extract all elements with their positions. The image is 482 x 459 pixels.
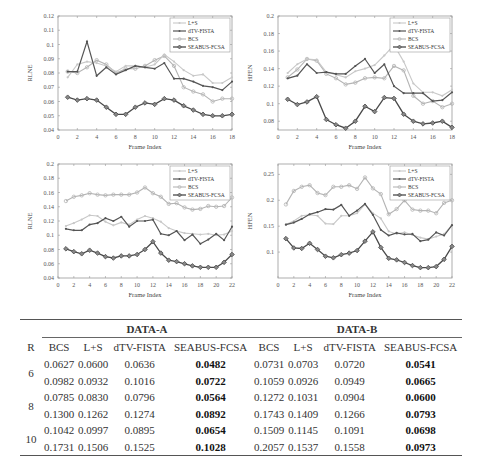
x-tick-label: 10 (372, 134, 378, 140)
y-axis-label: HFEN (246, 212, 253, 229)
x-tick-label: 18 (449, 134, 455, 140)
x-axis-label: Frame Index (348, 143, 382, 150)
y-axis-label: RLNE (26, 212, 33, 229)
y-tick-label: 0.1 (267, 101, 275, 107)
legend-entry: dTV-FISTA (408, 28, 434, 34)
y-tick-label: 0.04 (44, 127, 55, 133)
x-tick-label: 18 (417, 282, 423, 288)
chart-legend: L+SdTV-FISTABCSSEABUS-FCSA (390, 18, 450, 52)
table-cell: 0.0541 (379, 356, 462, 373)
table-cell: 0.0949 (320, 373, 379, 390)
table-cell: 0.1262 (76, 406, 110, 423)
col-header: SEABUS-FCSA (169, 338, 252, 357)
series-dtv-fista (65, 216, 233, 245)
table-cell: 0.0982 (42, 373, 76, 390)
table-cell: 0.0600 (76, 356, 110, 373)
y-tick-label: 0.16 (264, 48, 275, 54)
table-cell: 0.0703 (286, 356, 320, 373)
table-cell: 0.0793 (379, 406, 462, 423)
x-tick-label: 4 (315, 134, 318, 140)
table-cell: 0.0904 (320, 389, 379, 406)
table-row: 0.13000.12620.12740.08920.17430.14090.12… (20, 406, 462, 423)
x-tick-label: 2 (76, 134, 79, 140)
x-tick-label: 12 (391, 134, 397, 140)
table-cell: 0.1274 (110, 406, 169, 423)
y-tick-label: 0.09 (44, 56, 55, 62)
x-tick-label: 16 (430, 134, 436, 140)
x-tick-label: 0 (57, 282, 60, 288)
table-cell: 0.0665 (379, 373, 462, 390)
table-cell: 0.0973 (379, 439, 462, 456)
y-tick-label: 0.08 (44, 247, 55, 253)
x-tick-label: 20 (213, 282, 219, 288)
table-cell: 0.1558 (320, 439, 379, 456)
table-cell: 0.0722 (169, 373, 252, 390)
x-tick-label: 4 (95, 134, 98, 140)
legend-entry: L+S (188, 20, 198, 26)
x-tick-label: 16 (182, 282, 188, 288)
col-header: BCS (42, 338, 76, 357)
y-tick-label: 0.08 (44, 70, 55, 76)
table-cell: 0.0830 (76, 389, 110, 406)
table-cell: 0.1091 (320, 422, 379, 439)
y-tick-label: 0.14 (44, 204, 55, 210)
legend-entry: BCS (188, 184, 198, 190)
table-cell: 0.1537 (286, 439, 320, 456)
col-header: L+S (286, 338, 320, 357)
legend-entry: SEABUS-FCSA (408, 44, 445, 50)
legend-entry: BCS (408, 36, 418, 42)
y-tick-label: 0.06 (44, 261, 55, 267)
x-tick-label: 8 (134, 134, 137, 140)
legend-entry: BCS (408, 184, 418, 190)
x-tick-label: 12 (370, 282, 376, 288)
r-header-spacer (20, 320, 42, 338)
r-value: 8 (20, 389, 42, 422)
table-cell: 0.1145 (286, 422, 320, 439)
x-tick-label: 0 (277, 134, 280, 140)
x-tick-label: 18 (197, 282, 203, 288)
x-tick-label: 22 (449, 282, 455, 288)
legend-entry: dTV-FISTA (188, 28, 214, 34)
table-cell: 0.1731 (42, 439, 76, 456)
table-cell: 0.2057 (252, 439, 286, 456)
results-table: DATA-A DATA-B R BCS L+S dTV-FISTA SEABUS… (20, 319, 462, 456)
table-cell: 0.1509 (252, 422, 286, 439)
legend-entry: dTV-FISTA (408, 176, 434, 182)
y-tick-label: 0.15 (264, 223, 275, 229)
legend-entry: L+S (408, 168, 418, 174)
table-row: 80.07850.08300.07960.05640.12720.10310.0… (20, 389, 462, 406)
table-row: 0.17310.15060.15250.10280.20570.15370.15… (20, 439, 462, 456)
y-tick-label: 0.11 (44, 27, 54, 33)
legend-entry: SEABUS-FCSA (188, 44, 225, 50)
y-tick-label: 0.16 (44, 190, 55, 196)
x-tick-label: 10 (134, 282, 140, 288)
x-tick-label: 6 (115, 134, 118, 140)
legend-entry: L+S (188, 168, 198, 174)
table-cell: 0.1028 (169, 439, 252, 456)
legend-entry: BCS (188, 36, 198, 42)
y-tick-label: 0.12 (44, 13, 55, 19)
table-cell: 0.0731 (252, 356, 286, 373)
y-tick-label: 0.06 (44, 99, 55, 105)
table-cell: 0.0997 (76, 422, 110, 439)
legend-entry: SEABUS-FCSA (188, 192, 225, 198)
y-tick-label: 0.18 (44, 175, 55, 181)
x-tick-label: 14 (190, 134, 196, 140)
x-tick-label: 16 (402, 282, 408, 288)
chart-rlne-data-a: 0246810121416180.040.050.060.070.080.090… (20, 10, 240, 158)
series-seabus-fcsa (284, 230, 455, 270)
series-seabus-fcsa (285, 94, 454, 130)
x-tick-label: 12 (150, 282, 156, 288)
x-tick-label: 2 (292, 282, 295, 288)
group-data-b: DATA-B (252, 320, 462, 338)
r-value: 10 (20, 422, 42, 456)
y-tick-label: 0.14 (264, 66, 275, 72)
y-axis-label: HFEN (246, 64, 253, 81)
x-tick-label: 6 (335, 134, 338, 140)
y-axis-label: RLNE (26, 64, 33, 81)
x-tick-label: 6 (324, 282, 327, 288)
series-dtv-fista (287, 58, 454, 102)
table-cell: 0.1266 (320, 406, 379, 423)
y-tick-label: 0.1 (47, 42, 55, 48)
table-cell: 0.0654 (169, 422, 252, 439)
